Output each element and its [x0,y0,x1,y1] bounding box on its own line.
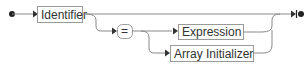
railroad-diagram: Identifier = Expression Array Initialize… [0,0,308,68]
arrow-icon [173,28,178,35]
equals-node: = [118,24,133,39]
end-marker [298,11,304,17]
rejoin-array-initializer-line [253,30,272,53]
expression-node: Expression [179,25,244,40]
arrow-icon [112,28,117,35]
rejoin-expression-line [243,14,280,32]
arrow-icon [165,50,170,57]
expression-label: Expression [182,25,241,39]
array-initializer-node: Array Initializer [171,46,254,62]
identifier-label: Identifier [41,8,87,22]
equals-label: = [121,24,128,38]
identifier-node: Identifier [38,7,88,23]
to-array-initializer-line [141,31,166,53]
arrow-icon [291,11,296,18]
array-initializer-label: Array Initializer [174,47,253,61]
optional-branch-line [86,14,113,31]
